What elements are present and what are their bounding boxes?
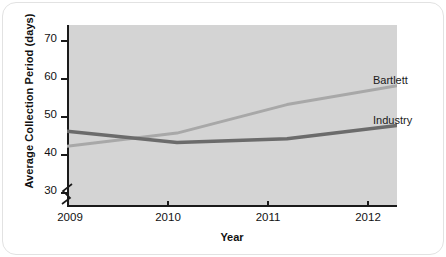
y-tick-label-30: 30 — [44, 184, 57, 196]
y-axis-title: Average Collection Period (days) — [23, 11, 35, 191]
y-tick-label-70: 70 — [44, 32, 57, 44]
series-label-industry: Industry — [373, 114, 412, 126]
y-tick-label-60: 60 — [44, 70, 57, 82]
x-axis-title: Year — [67, 231, 397, 243]
plot-frame: 70 60 50 40 30 2009 2010 2011 2012 — [67, 25, 397, 207]
chart-card: Average Collection Period (days) 70 60 5… — [2, 2, 444, 255]
x-tick-label-2011: 2011 — [256, 211, 281, 223]
series-label-bartlett: Bartlett — [373, 74, 408, 86]
x-tick-label-2010: 2010 — [155, 211, 181, 223]
y-tick-label-40: 40 — [44, 146, 57, 158]
series-lines — [67, 25, 397, 207]
y-tick-label-50: 50 — [44, 108, 57, 120]
x-tick-label-2012: 2012 — [355, 211, 381, 223]
x-tick-label-2009: 2009 — [57, 211, 83, 223]
